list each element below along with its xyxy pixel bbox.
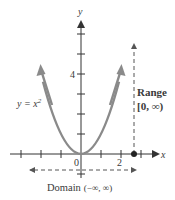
x-axis-label: x	[160, 149, 166, 160]
curve-left-arrow-icon	[37, 64, 46, 76]
parabola-diagram: y x 4 0 2 y = x2 Range [0, ∞) Domain(−∞,…	[0, 0, 175, 200]
range-label: Range	[137, 86, 167, 98]
domain-label: Domain(−∞, ∞)	[47, 182, 112, 193]
curve-equation-label: y = x2	[16, 97, 42, 109]
svg-text:Domain(−∞, ∞): Domain(−∞, ∞)	[47, 182, 112, 193]
x-tick-label-0: 0	[74, 157, 79, 168]
svg-text:y = x2: y = x2	[16, 97, 42, 109]
range-endpoint-dot	[131, 151, 137, 157]
range-interval: [0, ∞)	[137, 100, 164, 113]
curve-right-arrow-icon	[117, 64, 126, 76]
x-tick-label-2: 2	[117, 157, 122, 168]
y-axis-label: y	[77, 6, 83, 17]
y-tick-label-4: 4	[70, 69, 75, 80]
